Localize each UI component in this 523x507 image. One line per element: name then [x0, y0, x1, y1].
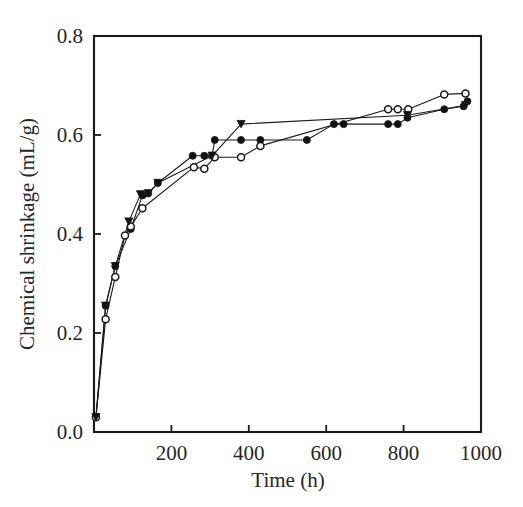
marker-open-circle	[385, 106, 392, 113]
y-axis-title: Chemical shrinkage (mL/g)	[15, 118, 39, 350]
line-series-1	[96, 101, 468, 417]
marker-filled-circle	[441, 106, 448, 113]
marker-open-circle	[139, 205, 146, 212]
marker-open-circle	[462, 90, 469, 97]
x-axis-tick-labels: 2004006008001000	[156, 441, 502, 465]
x-tick-label-800: 800	[388, 441, 420, 465]
marker-filled-circle	[330, 121, 337, 128]
y-axis-tick-labels: 0.00.20.40.60.8	[57, 24, 84, 444]
markers-series-3	[92, 102, 470, 421]
line-series-2	[96, 93, 466, 417]
marker-filled-circle	[189, 152, 196, 159]
marker-filled-circle	[238, 136, 245, 143]
marker-filled-circle	[201, 152, 208, 159]
marker-open-circle	[121, 232, 128, 239]
marker-open-circle	[441, 91, 448, 98]
marker-open-circle	[201, 165, 208, 172]
x-tick-label-1000: 1000	[460, 441, 502, 465]
x-axis-title: Time (h)	[251, 468, 324, 492]
marker-open-circle	[190, 164, 197, 171]
marker-filled-circle	[394, 121, 401, 128]
x-tick-label-600: 600	[310, 441, 342, 465]
plot-frame	[94, 36, 481, 432]
marker-filled-circle	[211, 136, 218, 143]
y-tick-label-0.4: 0.4	[57, 222, 84, 246]
markers-series-1	[92, 98, 471, 421]
chart-plot-area: 2004006008001000 0.00.20.40.60.8 Time (h…	[0, 0, 523, 507]
y-tick-label-0.8: 0.8	[57, 24, 83, 48]
data-series-lines	[96, 93, 468, 417]
chart-figure: 2004006008001000 0.00.20.40.60.8 Time (h…	[0, 0, 523, 507]
line-series-3	[96, 105, 466, 417]
y-tick-label-0.2: 0.2	[57, 321, 83, 345]
marker-filled-circle	[385, 121, 392, 128]
y-tick-label-0.0: 0.0	[57, 420, 83, 444]
x-tick-label-400: 400	[233, 441, 265, 465]
y-tick-label-0.6: 0.6	[57, 123, 83, 147]
marker-open-circle	[238, 154, 245, 161]
x-tick-label-200: 200	[156, 441, 188, 465]
plot-frame-box	[94, 36, 481, 432]
marker-filled-circle	[340, 121, 347, 128]
marker-open-circle	[112, 274, 119, 281]
marker-filled-circle	[303, 136, 310, 143]
marker-open-circle	[257, 142, 264, 149]
marker-open-circle	[394, 106, 401, 113]
marker-open-circle	[102, 316, 109, 323]
